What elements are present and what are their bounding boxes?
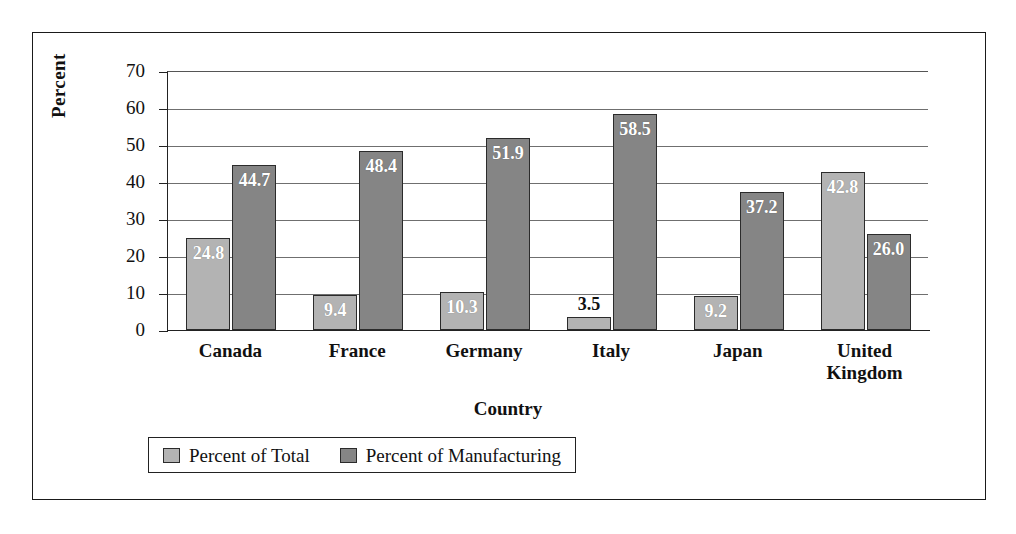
x-axis-category-label: Germany <box>421 340 548 362</box>
y-axis-tick-label: 70 <box>101 61 145 80</box>
plot-area: 24.844.79.448.410.351.93.558.59.237.242.… <box>167 71 928 330</box>
bar-value-label: 10.3 <box>440 298 484 316</box>
x-axis-category-label: UnitedKingdom <box>801 340 928 384</box>
x-axis-line <box>167 330 930 331</box>
bar-value-label: 58.5 <box>613 120 657 138</box>
x-axis-category-label: France <box>294 340 421 362</box>
legend-item: Percent of Manufacturing <box>340 446 561 465</box>
y-axis-tick <box>159 294 168 295</box>
y-axis-tick <box>159 331 168 332</box>
bar-percent-of-manufacturing <box>613 114 657 330</box>
legend-label-manufacturing: Percent of Manufacturing <box>366 446 561 465</box>
bar-value-label: 26.0 <box>867 240 911 258</box>
bar-group: 10.351.9 <box>422 71 549 330</box>
bar-value-label: 9.4 <box>313 301 357 319</box>
x-axis-category-label: Japan <box>674 340 801 362</box>
y-axis-tick <box>159 220 168 221</box>
legend-item: Percent of Total <box>163 446 310 465</box>
y-axis-tick-label: 20 <box>101 246 145 265</box>
y-axis-tick-label: 10 <box>101 283 145 302</box>
y-axis-tick <box>159 109 168 110</box>
bar-value-label: 48.4 <box>359 157 403 175</box>
bar-group: 9.448.4 <box>295 71 422 330</box>
y-axis-tick-label: 60 <box>101 98 145 117</box>
y-axis-tick <box>159 72 168 73</box>
bar-value-label: 42.8 <box>821 178 865 196</box>
y-axis-tick <box>159 257 168 258</box>
bar-percent-of-total <box>567 317 611 330</box>
legend-swatch-manufacturing <box>340 448 357 463</box>
legend-label-total: Percent of Total <box>189 446 310 465</box>
bar-value-label: 3.5 <box>567 295 611 313</box>
bar-value-label: 51.9 <box>486 144 530 162</box>
chart-figure: Percent 010203040506070 24.844.79.448.41… <box>0 0 1016 534</box>
bar-group: 9.237.2 <box>675 71 802 330</box>
bar-value-label: 37.2 <box>740 198 784 216</box>
bar-value-label: 24.8 <box>186 244 230 262</box>
y-axis-tick-label: 50 <box>101 135 145 154</box>
bar-group: 24.844.7 <box>168 71 295 330</box>
bar-percent-of-manufacturing <box>359 151 403 330</box>
bar-group: 3.558.5 <box>549 71 676 330</box>
bar-value-label: 9.2 <box>694 302 738 320</box>
y-axis-tick <box>159 146 168 147</box>
bar-group: 42.826.0 <box>802 71 929 330</box>
legend-swatch-total <box>163 448 180 463</box>
x-axis-category-label: Italy <box>548 340 675 362</box>
x-axis-title: Country <box>0 398 1016 420</box>
y-axis-tick-label: 40 <box>101 172 145 191</box>
y-axis-title: Percent <box>48 53 70 118</box>
x-axis-category-label: Canada <box>167 340 294 362</box>
y-axis-tick-label: 0 <box>101 320 145 339</box>
chart-legend: Percent of Total Percent of Manufacturin… <box>148 437 576 473</box>
bar-value-label: 44.7 <box>232 171 276 189</box>
x-axis-category-label-line2: Kingdom <box>801 362 928 384</box>
bar-percent-of-manufacturing <box>486 138 530 330</box>
y-axis-tick <box>159 183 168 184</box>
y-axis-tick-label: 30 <box>101 209 145 228</box>
